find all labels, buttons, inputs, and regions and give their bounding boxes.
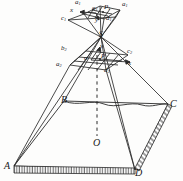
- ground-edge-AD-hatched: [14, 166, 135, 174]
- label-top-x-axis: x: [70, 7, 73, 14]
- label-c2: c2: [127, 48, 132, 55]
- label-d1: d1: [106, 15, 112, 22]
- label-apex-S: S: [99, 31, 103, 39]
- diagram-canvas: a1 a1 c1 P1 o1 d1 x y S b2 c2 a2 d2 o P …: [0, 0, 183, 181]
- label-b2: b2: [61, 45, 67, 52]
- label-mid-P: P: [101, 53, 105, 60]
- label-c1: c1: [61, 15, 66, 22]
- label-d2: d2: [104, 67, 110, 74]
- label-mid-o: o: [84, 55, 88, 62]
- geometry-figure: [0, 0, 183, 181]
- label-mid-y-axis: y: [100, 43, 103, 50]
- label-C: C: [170, 99, 177, 109]
- label-a1-right: a1: [122, 1, 128, 8]
- label-top-y-axis: y: [95, 17, 98, 24]
- label-a2: a2: [56, 61, 62, 68]
- label-O: O: [93, 138, 100, 148]
- label-A: A: [4, 161, 10, 171]
- label-D: D: [135, 168, 142, 178]
- label-a1-left: a1: [75, 0, 81, 6]
- label-p1: P1: [104, 4, 110, 11]
- label-mid-x-axis: x: [128, 60, 131, 67]
- label-o1: o1: [92, 5, 98, 12]
- ground-edge-DC-hatched: [135, 104, 172, 171]
- label-B: B: [61, 95, 67, 105]
